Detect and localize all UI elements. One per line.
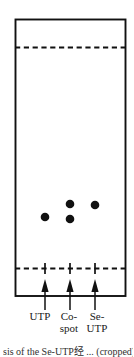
spot-se-utp-1 <box>91 201 100 210</box>
lane-label-se-utp: Se- UTP <box>80 311 114 334</box>
tlc-plate-border <box>16 20 126 297</box>
tlc-plate-graphic <box>0 0 134 357</box>
figure-caption-cropped: sis of the Se-UTP经 ... (cropped) <box>3 346 133 357</box>
tlc-figure: UTP Co- spot Se- UTP sis of the Se-UTP经 … <box>0 0 134 357</box>
lane-label-utp: UTP <box>24 311 56 323</box>
spot-co-spot-upper <box>66 200 75 209</box>
spot-utp-1 <box>41 213 50 222</box>
spot-co-spot-lower <box>66 215 75 224</box>
